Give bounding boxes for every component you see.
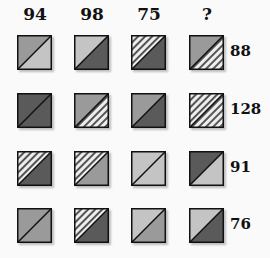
split-square-r4-c1 bbox=[17, 208, 52, 243]
row-value-3: 91 bbox=[230, 158, 270, 176]
diagonal-split-icon bbox=[189, 35, 224, 70]
split-square-r3-c4 bbox=[189, 151, 224, 186]
split-square-r1-c2 bbox=[74, 35, 109, 70]
diagonal-split-icon bbox=[74, 35, 109, 70]
split-square-r3-c3 bbox=[131, 151, 166, 186]
column-value-2: 98 bbox=[72, 4, 112, 24]
diagonal-split-icon bbox=[131, 93, 166, 128]
split-square-r2-c3 bbox=[131, 93, 166, 128]
column-value-4-unknown: ? bbox=[187, 4, 227, 24]
column-value-1: 94 bbox=[15, 4, 55, 24]
row-value-4: 76 bbox=[230, 215, 270, 233]
diagonal-split-icon bbox=[17, 208, 52, 243]
split-square-r3-c2 bbox=[74, 151, 109, 186]
split-square-r1-c4 bbox=[189, 35, 224, 70]
row-value-2: 128 bbox=[230, 100, 270, 118]
diagonal-split-icon bbox=[189, 151, 224, 186]
split-square-r2-c4 bbox=[189, 93, 224, 128]
row-value-1: 88 bbox=[230, 42, 270, 60]
diagonal-split-icon bbox=[74, 93, 109, 128]
split-square-r4-c4 bbox=[189, 208, 224, 243]
diagonal-split-icon bbox=[17, 93, 52, 128]
diagonal-split-icon bbox=[189, 208, 224, 243]
split-square-r1-c3 bbox=[131, 35, 166, 70]
split-square-r2-c1 bbox=[17, 93, 52, 128]
diagonal-split-icon bbox=[189, 93, 224, 128]
diagonal-split-icon bbox=[131, 151, 166, 186]
diagonal-split-icon bbox=[131, 35, 166, 70]
split-square-r3-c1 bbox=[17, 151, 52, 186]
split-square-r2-c2 bbox=[74, 93, 109, 128]
diagonal-split-icon bbox=[17, 35, 52, 70]
split-square-r1-c1 bbox=[17, 35, 52, 70]
diagonal-split-icon bbox=[17, 151, 52, 186]
diagonal-split-icon bbox=[74, 208, 109, 243]
diagonal-split-icon bbox=[74, 151, 109, 186]
column-value-3: 75 bbox=[129, 4, 169, 24]
split-square-r4-c2 bbox=[74, 208, 109, 243]
diagonal-split-icon bbox=[131, 208, 166, 243]
split-square-r4-c3 bbox=[131, 208, 166, 243]
